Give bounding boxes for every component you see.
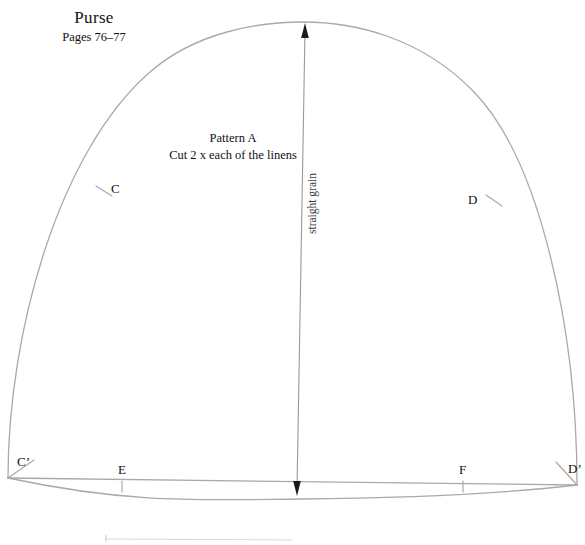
registration-rule (106, 539, 292, 540)
baseline-chord (8, 478, 577, 485)
notch-tick-c (96, 186, 112, 196)
point-label-c: C (111, 181, 120, 197)
pattern-drawing (0, 0, 585, 545)
pattern-sheet: Purse Pages 76–77 Pattern A Cut 2 x each… (0, 0, 585, 545)
pattern-name-label: Pattern A (113, 131, 353, 145)
grainline-arrowhead-bottom (293, 481, 301, 496)
grainline-shaft (297, 30, 305, 490)
pattern-outline-curve (8, 22, 577, 485)
point-label-f: F (459, 462, 466, 478)
point-label-e: E (118, 462, 126, 478)
point-label-d-prime: D’ (568, 461, 582, 477)
page-title: Purse (14, 8, 174, 28)
point-label-c-prime: C’ (17, 454, 30, 470)
cut-instruction-label: Cut 2 x each of the linens (113, 148, 353, 162)
grainline-label: straight grain (306, 173, 318, 234)
notch-tick-d (486, 195, 502, 206)
pattern-annotation: Pattern A Cut 2 x each of the linens (113, 131, 353, 163)
point-label-d: D (468, 192, 477, 208)
heading-block: Purse Pages 76–77 (14, 8, 174, 44)
page-reference: Pages 76–77 (14, 30, 174, 44)
grainline-arrowhead-top (301, 23, 309, 38)
